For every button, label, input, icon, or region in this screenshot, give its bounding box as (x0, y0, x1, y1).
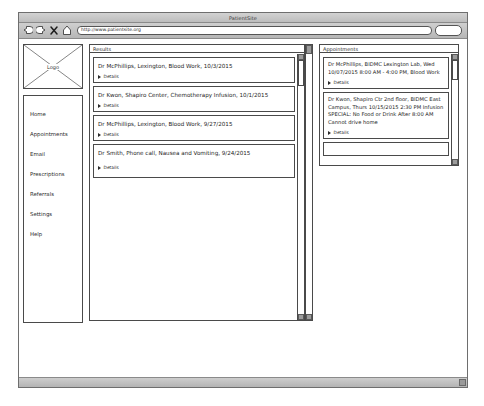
sidebar-item-referrals[interactable]: Referrals (24, 184, 82, 204)
sidebar-item-label: Settings (30, 211, 52, 217)
appointment-details-label: Details (334, 80, 349, 85)
sidebar-item-label: Referrals (30, 191, 54, 197)
sidebar-item-help[interactable]: Help (24, 224, 82, 244)
result-card[interactable]: Dr Smith, Phone call, Nausea and Vomitin… (93, 144, 295, 178)
sidebar-item-appointments[interactable]: Appointments (24, 124, 82, 144)
page-scroll-down-arrow[interactable] (306, 314, 312, 320)
result-details-toggle[interactable]: Details (98, 103, 290, 108)
logo-label: Logo (45, 64, 61, 70)
result-title: Dr Kwon, Shapiro Center, Chemotherapy In… (98, 91, 290, 99)
result-card[interactable]: Dr McPhillips, Lexington, Blood Work, 9/… (93, 115, 295, 141)
results-panel: Results Dr McPhillips, Lexington, Blood … (89, 44, 305, 321)
sidebar-item-label: Appointments (30, 131, 68, 137)
results-panel-header: Results (90, 45, 304, 53)
result-title: Dr McPhillips, Lexington, Blood Work, 9/… (98, 120, 290, 128)
scroll-down-arrow[interactable] (298, 314, 304, 320)
chevron-right-icon (328, 131, 331, 135)
appointment-details-toggle[interactable]: Details (328, 130, 445, 135)
appointment-card[interactable]: Dr McPhillips, BIDMC Lexington Lab, Wed … (323, 57, 449, 89)
result-details-label: Details (104, 103, 119, 108)
chevron-right-icon (98, 133, 101, 137)
appointments-scrollbar[interactable] (451, 54, 458, 165)
result-card[interactable]: Dr McPhillips, Lexington, Blood Work, 10… (93, 57, 295, 83)
browser-toolbar: http://www.patientsite.org (19, 23, 467, 39)
home-icon[interactable] (62, 25, 72, 36)
left-column: Logo Home Appointments Email Prescriptio… (23, 44, 83, 323)
scroll-thumb[interactable] (298, 60, 304, 86)
scroll-thumb[interactable] (452, 60, 458, 80)
appointments-panel: Appointments Dr McPhillips, BIDMC Lexing… (319, 44, 459, 166)
chevron-right-icon (328, 81, 331, 85)
result-details-label: Details (104, 74, 119, 79)
result-details-toggle[interactable]: Details (98, 74, 290, 79)
results-list: Dr McPhillips, Lexington, Blood Work, 10… (90, 54, 297, 320)
sidebar-item-settings[interactable]: Settings (24, 204, 82, 224)
appointment-details-toggle[interactable]: Details (328, 80, 445, 85)
sidebar-item-label: Home (30, 111, 46, 117)
result-title: Dr McPhillips, Lexington, Blood Work, 10… (98, 62, 290, 70)
window-horizontal-scrollbar[interactable] (19, 377, 467, 387)
address-bar[interactable]: http://www.patientsite.org (77, 26, 432, 35)
forward-arrow-icon[interactable] (36, 25, 46, 36)
page-viewport: Logo Home Appointments Email Prescriptio… (19, 39, 467, 378)
appointments-panel-header: Appointments (320, 45, 458, 53)
results-panel-title: Results (93, 46, 111, 52)
browser-title-bar: PatientSite (19, 13, 467, 23)
result-card[interactable]: Dr Kwon, Shapiro Center, Chemotherapy In… (93, 86, 295, 112)
result-details-toggle[interactable]: Details (98, 132, 290, 137)
sidebar-item-label: Prescriptions (30, 171, 65, 177)
appointment-line: SPECIAL: No Food or Drink After 8:00 AM (328, 111, 445, 119)
appointment-card[interactable]: Dr Kwon, Shapiro Ctr 2nd floor, BIDMC Ea… (323, 92, 449, 139)
sidebar-item-prescriptions[interactable]: Prescriptions (24, 164, 82, 184)
appointment-line: Dr Kwon, Shapiro Ctr 2nd floor, BIDMC Ea… (328, 96, 445, 104)
back-arrow-icon[interactable] (23, 25, 33, 36)
page-scrollbar[interactable] (305, 44, 313, 321)
address-bar-url: http://www.patientsite.org (81, 28, 141, 33)
page-scroll-thumb[interactable] (306, 45, 312, 54)
browser-search-box[interactable] (435, 25, 462, 36)
result-title: Dr Smith, Phone call, Nausea and Vomitin… (98, 149, 290, 157)
appointments-panel-title: Appointments (323, 46, 358, 52)
browser-title: PatientSite (229, 15, 257, 21)
appointments-list: Dr McPhillips, BIDMC Lexington Lab, Wed … (320, 54, 451, 165)
appointment-line: Campus, Thurs 10/15/2015 2:30 PM Infusio… (328, 104, 445, 112)
stop-x-icon[interactable] (49, 25, 59, 36)
appointment-line: Cannot drive home (328, 119, 445, 127)
result-details-toggle[interactable]: Details (98, 165, 290, 170)
result-details-label: Details (104, 132, 119, 137)
sidebar-item-email[interactable]: Email (24, 144, 82, 164)
results-scrollbar[interactable] (297, 54, 304, 320)
sidebar-nav: Home Appointments Email Prescriptions Re… (23, 95, 83, 323)
appointment-card-empty[interactable] (323, 142, 449, 156)
result-details-label: Details (104, 165, 119, 170)
appointment-details-label: Details (334, 130, 349, 135)
appointment-line: Dr McPhillips, BIDMC Lexington Lab, Wed (328, 61, 445, 69)
appointment-line: 10/07/2015 8:00 AM - 4:00 PM, Blood Work (328, 69, 445, 77)
window-resize-grip[interactable] (459, 379, 466, 386)
sidebar-item-label: Help (30, 231, 42, 237)
chevron-right-icon (98, 75, 101, 79)
sidebar-item-home[interactable]: Home (24, 104, 82, 124)
sidebar-item-label: Email (30, 151, 45, 157)
chevron-right-icon (98, 166, 101, 170)
logo-placeholder: Logo (23, 44, 83, 89)
chevron-right-icon (98, 104, 101, 108)
scroll-down-arrow[interactable] (452, 159, 458, 165)
browser-window: PatientSite http://www.patientsite.org (18, 12, 468, 388)
